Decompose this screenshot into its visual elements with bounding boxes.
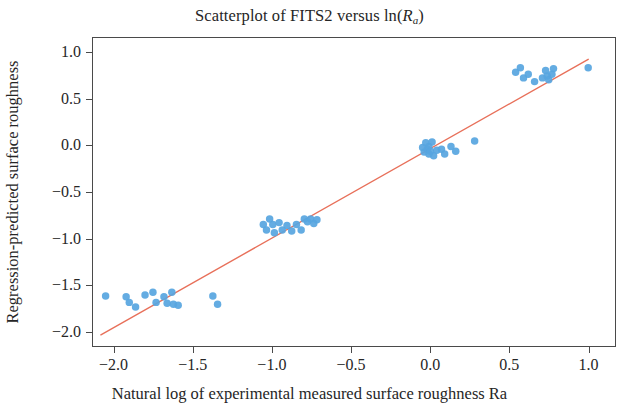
data-point: [263, 226, 270, 233]
x-axis-tick: [589, 346, 590, 353]
x-axis-tick-label: −2.0: [99, 356, 128, 374]
y-axis-tick: [86, 52, 93, 53]
data-point: [452, 147, 459, 154]
x-axis-label: Natural log of experimental measured sur…: [0, 384, 619, 404]
data-point: [269, 221, 276, 228]
x-axis-tick: [193, 346, 194, 353]
y-axis-tick-label: −0.5: [52, 183, 81, 201]
data-point: [313, 216, 320, 223]
data-point: [550, 65, 557, 72]
y-axis-tick: [86, 145, 93, 146]
data-point: [149, 288, 156, 295]
y-axis-tick: [86, 285, 93, 286]
data-point: [441, 150, 448, 157]
data-point: [126, 299, 133, 306]
data-points-group: [102, 64, 592, 311]
y-axis-tick: [86, 99, 93, 100]
x-axis-tick-label: −1.0: [257, 356, 286, 374]
x-axis-tick: [509, 346, 510, 353]
data-point: [102, 292, 109, 299]
x-axis-tick-label: −1.5: [178, 356, 207, 374]
data-point: [209, 292, 216, 299]
y-axis-tick-label: 0.5: [61, 90, 81, 108]
x-axis-tick-label: 0.0: [420, 356, 440, 374]
plot-area: 1.00.50.0−0.5−1.0−1.5−2.0−2.0−1.5−1.0−0.…: [92, 37, 616, 347]
data-point: [141, 291, 148, 298]
x-axis-tick: [114, 346, 115, 353]
data-point: [271, 229, 278, 236]
y-axis-tick-label: 0.0: [61, 136, 81, 154]
data-layer: [93, 38, 615, 346]
data-point: [132, 303, 139, 310]
x-axis-tick: [272, 346, 273, 353]
chart-title: Scatterplot of FITS2 versus ln(Ra): [0, 6, 619, 26]
y-axis-tick: [86, 239, 93, 240]
x-axis-tick: [430, 346, 431, 353]
data-point: [471, 137, 478, 144]
y-axis-label-text: Regression-predicted surface roughness: [2, 61, 22, 324]
y-axis-tick-label: −2.0: [52, 323, 81, 341]
x-axis-tick-label: −0.5: [337, 356, 366, 374]
y-axis-tick: [86, 192, 93, 193]
data-point: [297, 226, 304, 233]
y-axis-tick-label: 1.0: [61, 43, 81, 61]
chart-title-suffix: ): [418, 6, 424, 25]
y-axis-label: Regression-predicted surface roughness: [0, 37, 24, 347]
y-axis-tick: [86, 332, 93, 333]
x-axis-label-text: Natural log of experimental measured sur…: [112, 384, 507, 403]
data-point: [174, 301, 181, 308]
data-point: [584, 64, 591, 71]
data-point: [517, 64, 524, 71]
chart-title-variable: R: [403, 6, 413, 25]
data-point: [152, 299, 159, 306]
y-axis-tick-label: −1.0: [52, 230, 81, 248]
x-axis-tick-label: 0.5: [499, 356, 519, 374]
data-point: [163, 300, 170, 307]
data-point: [214, 301, 221, 308]
chart-title-prefix: Scatterplot of FITS2 versus ln(: [195, 6, 403, 25]
y-axis-tick-label: −1.5: [52, 276, 81, 294]
data-point: [531, 78, 538, 85]
data-point: [275, 219, 282, 226]
x-axis-tick-label: 1.0: [579, 356, 599, 374]
scatterplot-figure: Scatterplot of FITS2 versus ln(Ra) Regre…: [0, 0, 619, 413]
data-point: [428, 138, 435, 145]
data-point: [168, 288, 175, 295]
data-point: [288, 227, 295, 234]
x-axis-tick: [351, 346, 352, 353]
data-point: [525, 70, 532, 77]
data-point: [160, 293, 167, 300]
